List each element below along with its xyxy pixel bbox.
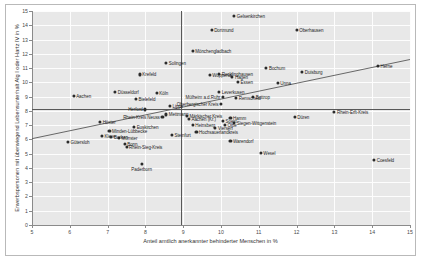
data-point-label: Köln [159, 91, 168, 96]
data-point-label: Aachen (Kr.) [191, 116, 215, 121]
data-point-label: Wuppertal [212, 73, 232, 78]
data-point-label: Wesel [263, 150, 275, 155]
data-point-label: Remscheid [239, 96, 261, 101]
data-point-label: Mülheim a.d.Ruhr [186, 95, 221, 100]
data-point-label: Rhein-Kreis Neuss [123, 115, 160, 120]
data-point-label: Krefeld [142, 72, 156, 77]
figure-root: 567891011121314150123456789101112131415 … [0, 0, 421, 261]
data-point-label: Essen [241, 80, 253, 85]
data-point-label: Düren [297, 114, 309, 119]
data-point-label: Bielefeld [139, 96, 156, 101]
scatter-plot: 567891011121314150123456789101112131415 … [6, 5, 415, 255]
data-point-label: Aachen [76, 93, 91, 98]
data-point-label: Siegen-Wittgenstein [237, 120, 276, 125]
data-point-label: Steinfurt [174, 133, 190, 138]
data-point-label: Warendorf [233, 138, 253, 143]
data-point-label: Solingen [169, 61, 186, 66]
data-point-label: Leverkusen [222, 89, 245, 94]
data-point-label: Gütersloh [71, 139, 90, 144]
data-point-label: Höxter [103, 120, 116, 125]
data-point-label: Minden-Lübbecke [112, 128, 147, 133]
data-point-label: Mönchengladbach [195, 48, 231, 53]
data-point-label: Oberhausen [299, 28, 323, 33]
data-point-label: Paderborn [131, 166, 152, 171]
data-point-label: Lippe [173, 103, 184, 108]
data-point-label: Coesfeld [377, 158, 394, 163]
data-point-label: Gelsenkirchen [237, 13, 265, 18]
data-point-label: Duisburg [305, 70, 323, 75]
data-point-label: Bochum [269, 66, 285, 71]
data-point-label: Borken [114, 134, 128, 139]
data-point-label: Bonn [127, 142, 137, 147]
data-point-label: Düsseldorf [118, 89, 139, 94]
y-axis-title: Erwerbspersonen mit überwiegend Lebensun… [14, 11, 20, 225]
data-point-label: Herford [128, 107, 143, 112]
data-point-label: Heinsberg [195, 123, 215, 128]
data-point-label: Dortmund [214, 27, 233, 32]
chart-frame: 567891011121314150123456789101112131415 … [5, 4, 416, 256]
x-axis-title: Anteil amtlich anerkannter behinderter M… [6, 238, 415, 244]
data-point-label: Hochsauerlandkreis [199, 129, 238, 134]
data-point-label: Unna [280, 81, 291, 86]
data-point-label: Mettmann [169, 112, 189, 117]
data-point-label: Rhein-Erft-Kreis [337, 110, 368, 115]
data-point-label: Herne [380, 63, 392, 68]
